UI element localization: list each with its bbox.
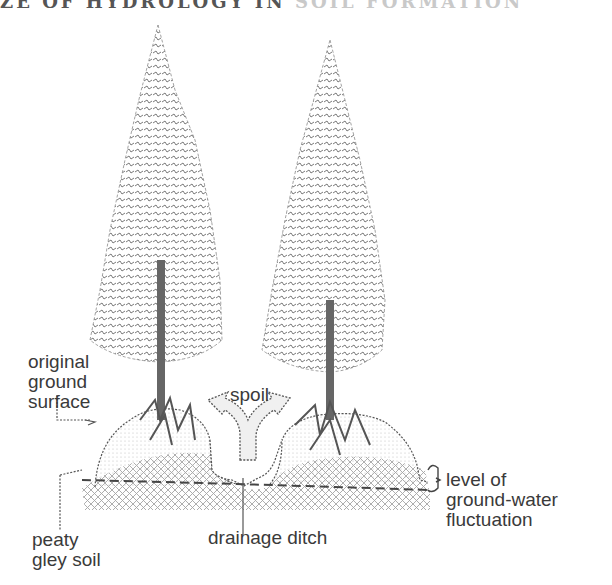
label-peaty-gley-soil: peaty gley soil — [32, 530, 101, 570]
label-spoil: spoil — [230, 385, 269, 405]
raised-mound-right — [270, 414, 428, 484]
label-drainage-ditch: drainage ditch — [208, 528, 327, 548]
spruce-tree-left — [90, 25, 222, 445]
spruce-tree-right — [262, 40, 385, 455]
label-original-ground-surface: original ground surface — [28, 352, 90, 412]
label-ground-water-fluctuation: level of ground-water fluctuation — [446, 470, 558, 530]
